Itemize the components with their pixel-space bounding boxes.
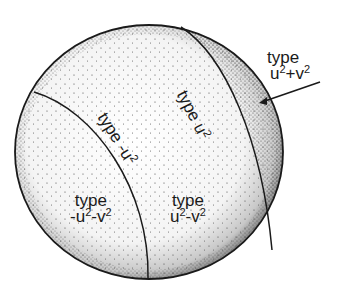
label-type-neg-u2-neg-v2: type -u2-v2 <box>70 193 112 225</box>
diagram-canvas: type u2+v2 type u2 type -u2 type -u2-v2 … <box>0 0 337 295</box>
label-part: -v <box>91 207 105 226</box>
sphere-illustration <box>0 0 337 295</box>
label-type-u2-plus-v2: type u2+v2 <box>256 50 310 82</box>
label-part: 2 <box>304 63 310 75</box>
label-part: 2 <box>200 206 206 218</box>
pointer-arrow <box>262 82 320 102</box>
label-type-u2-neg-v2: type u2-v2 <box>170 193 206 225</box>
label-part: -v <box>186 207 200 226</box>
label-part: 2 <box>105 206 111 218</box>
label-part: -u <box>70 207 85 226</box>
label-part: +v <box>286 64 304 83</box>
